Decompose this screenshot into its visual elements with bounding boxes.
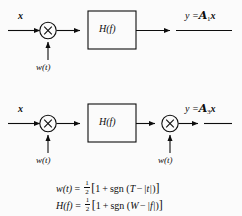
eq-wt-body-fn: sgn <box>110 183 124 194</box>
eq-hf-fraction-numerator: 1 <box>85 197 91 206</box>
d2-output-operator-letter: A <box>199 102 207 115</box>
eq-wt-lhs: w(t) <box>56 183 72 194</box>
eq-hf-body-one: 1 <box>96 200 101 211</box>
eq-hf-body-plus: + <box>103 200 109 211</box>
d1-output-operator-letter: A <box>199 9 207 22</box>
eq-wt-fraction-numerator: 1 <box>84 180 90 189</box>
d1-output-operand: x <box>210 10 215 21</box>
eq-wt-fraction-denominator: 2 <box>84 188 90 196</box>
d1-output-prefix: y = <box>185 10 199 21</box>
eq-hf-arg-minus: − <box>140 200 146 211</box>
eq-wt-fraction: 1 2 <box>84 180 90 196</box>
d1-noise-label: w(t) <box>36 62 51 72</box>
d2-output-prefix: y = <box>185 103 199 114</box>
eq-hf-body-fn: sgn <box>110 200 124 211</box>
d2-output-operand: x <box>210 103 215 114</box>
d1-filter-label: H(f) <box>99 23 116 34</box>
eq-hf-fraction: 1 2 <box>85 197 91 213</box>
eq-wt-close-bracket: ] <box>155 181 159 196</box>
d2-filter-label: H(f) <box>99 116 116 127</box>
d2-noise-label-2: w(t) <box>158 155 173 165</box>
block-diagram-figure: x H(f) w(t) y =A1x x H(f) w(t) w(t) y =A… <box>0 0 242 216</box>
eq-wt-arg-second: |t| <box>144 183 152 194</box>
d1-output-label: y =A1x <box>185 9 215 23</box>
d2-input-label: x <box>18 103 23 114</box>
eq-hf-fraction-denominator: 2 <box>85 205 91 213</box>
equation-wt: w(t) = 1 2 [ 1 + sgn ( T − |t| ) ] <box>56 180 159 196</box>
eq-wt-equals: = <box>75 183 81 194</box>
d2-output-label: y =A3x <box>185 102 215 116</box>
eq-wt-arg-minus: − <box>137 183 143 194</box>
eq-wt-body-plus: + <box>102 183 108 194</box>
eq-hf-lhs: H(f) <box>56 200 73 211</box>
eq-hf-arg-second: |f| <box>147 200 155 211</box>
eq-hf-close-bracket: ] <box>159 198 163 213</box>
eq-wt-arg-first: T <box>130 183 136 194</box>
equation-hf: H(f) = 1 2 [ 1 + sgn ( W − |f| ) ] <box>56 197 163 213</box>
eq-hf-equals: = <box>75 200 81 211</box>
eq-hf-arg-first: W <box>130 200 138 211</box>
eq-wt-body-one: 1 <box>95 183 100 194</box>
d1-input-label: x <box>18 10 23 21</box>
d2-noise-label-1: w(t) <box>36 155 51 165</box>
